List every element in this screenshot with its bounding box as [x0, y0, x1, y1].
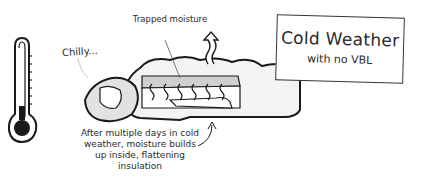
- caption-label: After multiple days in cold weather, moi…: [80, 128, 200, 172]
- pointer-arrow-icon: [198, 122, 216, 146]
- title-box: Cold Weather with no VBL: [275, 14, 405, 83]
- thermometer-icon: [9, 38, 36, 142]
- subtitle-text: with no VBL: [277, 51, 403, 67]
- chilly-pointer: [78, 58, 88, 78]
- title-text: Cold Weather: [277, 27, 403, 50]
- trapped-moisture-label: Trapped moisture: [130, 14, 210, 24]
